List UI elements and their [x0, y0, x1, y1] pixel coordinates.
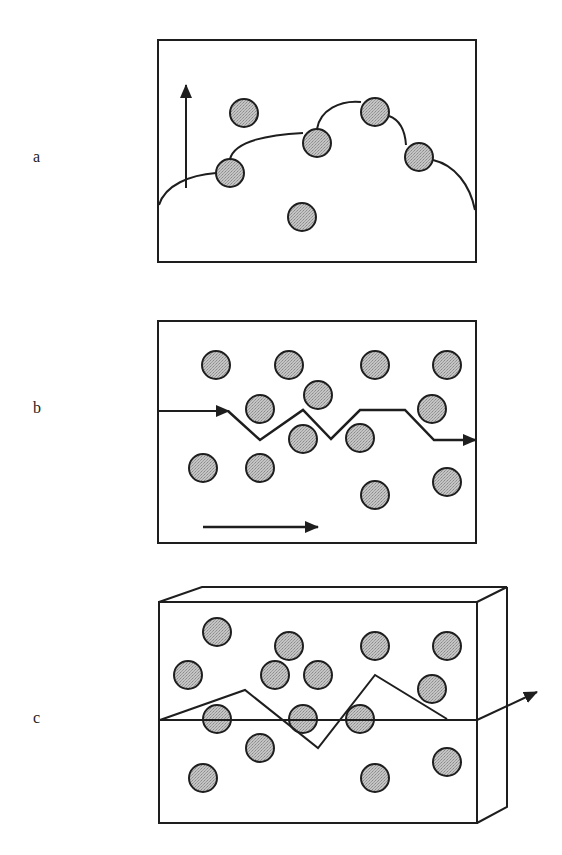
particles-b	[189, 351, 461, 509]
particles-c	[174, 618, 461, 792]
particles-a	[216, 98, 433, 231]
panel-a	[158, 40, 476, 262]
diagram-canvas	[0, 0, 562, 855]
box-side-face	[477, 587, 507, 823]
panel-c	[159, 587, 537, 823]
panel-b	[158, 321, 476, 543]
box-top-face	[159, 587, 507, 602]
